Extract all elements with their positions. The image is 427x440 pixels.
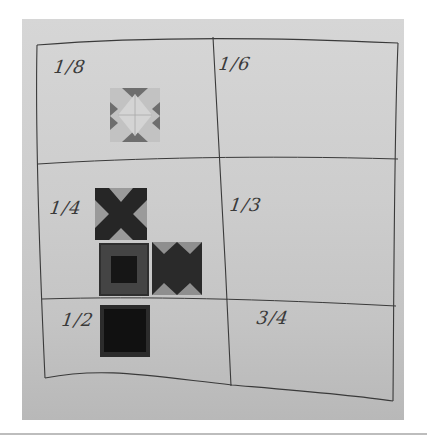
tile-square-in-square <box>99 243 149 296</box>
grid-left-line <box>37 45 45 378</box>
cell-label-1-3: 1/3 <box>229 194 264 215</box>
grid-horizontal-divider-2 <box>42 298 396 306</box>
grid-drawing <box>22 19 404 420</box>
cell-label-1-6: 1/6 <box>218 53 253 74</box>
cell-label-1-8: 1/8 <box>53 56 88 77</box>
grid-horizontal-divider-1 <box>38 157 398 164</box>
bottom-divider <box>0 433 427 435</box>
grid-bottom-line <box>45 373 393 401</box>
cell-label-3-4: 3/4 <box>256 307 291 328</box>
tile-dark-square <box>100 305 150 357</box>
tile-dark-x <box>95 188 147 240</box>
grid-right-line <box>393 43 398 401</box>
whiteboard-photo: 1/8 1/6 1/4 1/3 1/2 3/4 <box>22 19 404 420</box>
cell-label-1-2: 1/2 <box>61 309 96 330</box>
cell-label-1-4: 1/4 <box>49 197 84 218</box>
grid-top-line <box>37 39 398 45</box>
tile-light-star <box>110 88 160 142</box>
tile-zigzag <box>152 242 202 295</box>
